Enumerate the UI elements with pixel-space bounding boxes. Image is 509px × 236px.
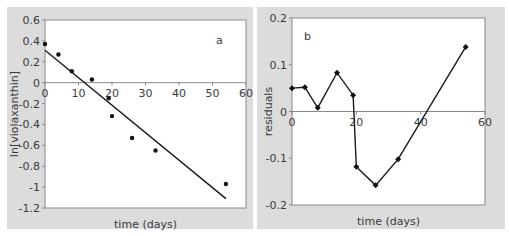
x-tick-label: 0 [289, 116, 296, 129]
x-axis-label: time (days) [357, 215, 420, 228]
x-tick-label: 20 [349, 116, 363, 129]
y-tick-label: 0 [280, 106, 287, 119]
y-tick-label: 0.1 [270, 59, 288, 72]
chart-b: 0.20.10-0.1-0.20204060time (days)residua… [0, 0, 509, 236]
y-tick-label: -0.2 [266, 199, 287, 212]
y-tick-label: -0.1 [266, 152, 287, 165]
y-axis-label: residuals [262, 87, 275, 137]
panel-label: b [304, 30, 311, 43]
y-tick-label: 0.2 [270, 12, 288, 25]
x-tick-label: 60 [478, 116, 492, 129]
